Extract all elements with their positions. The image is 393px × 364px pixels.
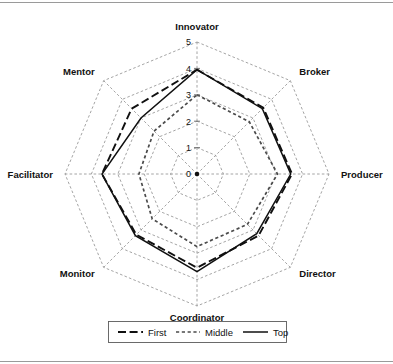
radar-tick-labels: 012345 [186, 37, 200, 179]
radar-axis-label-monitor: Monitor [60, 268, 95, 279]
chart-legend: First Middle Top [109, 322, 289, 343]
radar-axis-labels: InnovatorBrokerProducerDirectorCoordinat… [8, 21, 383, 323]
radar-tick-label-3: 3 [186, 90, 191, 100]
radar-axis-label-mentor: Mentor [63, 66, 95, 77]
radar-center-point [195, 172, 199, 176]
radar-tick-label-4: 4 [186, 64, 191, 74]
radar-axis-label-director: Director [299, 268, 336, 279]
radar-axis-label-innovator: Innovator [175, 21, 219, 32]
radar-series-top [102, 70, 291, 272]
radar-axis-label-broker: Broker [299, 66, 330, 77]
legend-label-middle: Middle [205, 327, 233, 338]
radar-chart-svg: 012345 InnovatorBrokerProducerDirectorCo… [0, 0, 393, 364]
legend-label-first: First [148, 327, 167, 338]
radar-tick-label-0: 0 [186, 169, 191, 179]
legend-label-top: Top [273, 327, 288, 338]
radar-chart-figure: 012345 InnovatorBrokerProducerDirectorCo… [0, 0, 393, 364]
radar-tick-label-2: 2 [186, 117, 191, 127]
radar-tick-label-1: 1 [186, 143, 191, 153]
radar-tick-label-5: 5 [186, 37, 191, 47]
radar-axis-label-facilitator: Facilitator [8, 169, 54, 180]
radar-axis-label-producer: Producer [341, 169, 383, 180]
radar-series-middle [139, 95, 278, 247]
